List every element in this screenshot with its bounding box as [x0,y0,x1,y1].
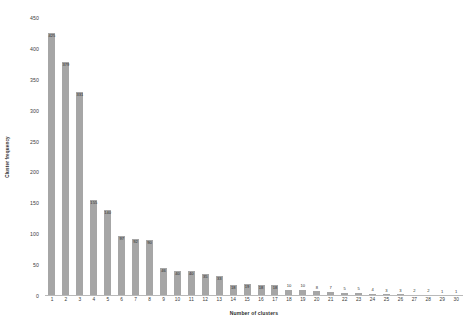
bar-value-label: 92 [133,240,138,244]
bar-value-label: 4 [371,288,373,292]
bar-slot: 3 [393,18,407,296]
x-axis-tick-label: 4 [87,297,101,309]
bar-slot: 35 [198,18,212,296]
x-axis-line [45,295,463,296]
x-axis-tick-label: 3 [73,297,87,309]
x-axis-tick-label: 5 [101,297,115,309]
x-axis-tick-label: 24 [366,297,380,309]
bar-value-label: 18 [231,286,236,290]
y-axis-tick-label: 200 [30,169,39,175]
x-axis-tick-label: 25 [380,297,394,309]
x-axis-tick-label: 15 [240,297,254,309]
bar-slot: 18 [226,18,240,296]
bar-value-label: 2 [427,289,429,293]
bar-slot: 46 [157,18,171,296]
table-row[interactable]: 140 [104,210,111,296]
x-axis-tick-label: 27 [407,297,421,309]
bar-series: 4253793311551409792904640403533181918181… [45,18,463,296]
x-axis-tick-label: 18 [282,297,296,309]
bar-slot: 155 [87,18,101,296]
table-row[interactable]: 35 [202,274,209,296]
bar-value-label: 155 [90,201,97,205]
bar-value-label: 8 [316,286,318,290]
x-axis-tick-label: 2 [59,297,73,309]
y-axis-tick-label: 0 [36,293,39,299]
table-row[interactable]: 425 [48,33,55,296]
bar-value-label: 331 [76,93,83,97]
y-axis-tick-label: 50 [33,262,39,268]
bar-slot: 18 [268,18,282,296]
x-axis-tick-label: 28 [421,297,435,309]
bar-value-label: 379 [62,63,69,67]
bar-slot: 10 [296,18,310,296]
x-axis-tick-label: 10 [170,297,184,309]
bar-slot: 92 [129,18,143,296]
x-axis-tick-label: 11 [184,297,198,309]
bar-value-label: 1 [455,290,457,294]
bar-slot: 140 [101,18,115,296]
bar-value-label: 425 [49,34,56,38]
bar-slot: 40 [170,18,184,296]
bar-value-label: 3 [385,289,387,293]
table-row[interactable]: 90 [146,240,153,296]
x-axis-tick-label: 23 [352,297,366,309]
x-axis-tick-label: 9 [157,297,171,309]
bar-slot: 40 [184,18,198,296]
bar-value-label: 3 [399,289,401,293]
bar-value-label: 7 [330,286,332,290]
bar-value-label: 97 [119,237,124,241]
x-axis-tick-label: 26 [393,297,407,309]
bar-slot: 8 [310,18,324,296]
x-axis-tick-label: 13 [212,297,226,309]
x-axis-tick-label: 22 [338,297,352,309]
y-axis-tick-label: 350 [30,77,39,83]
table-row[interactable]: 40 [188,271,195,296]
y-axis-title: Cluster frequency [5,112,10,202]
bar-value-label: 5 [344,287,346,291]
x-axis-tick-label: 21 [324,297,338,309]
table-row[interactable]: 46 [160,268,167,296]
bar-slot: 3 [380,18,394,296]
table-row[interactable]: 40 [174,271,181,296]
bar-slot: 1 [449,18,463,296]
bar-value-label: 33 [217,277,222,281]
bar-value-label: 35 [203,275,208,279]
x-axis-tick-label: 17 [268,297,282,309]
table-row[interactable]: 92 [132,239,139,296]
x-axis-tick-label: 6 [115,297,129,309]
bar-value-label: 18 [273,286,278,290]
bar-value-label: 46 [161,269,166,273]
bar-slot: 33 [212,18,226,296]
bar-value-label: 10 [301,284,306,288]
bar-value-label: 1 [441,290,443,294]
y-axis-tick-label: 400 [30,46,39,52]
bar-slot: 425 [45,18,59,296]
x-axis-tick-label: 30 [449,297,463,309]
x-axis-tick-label: 20 [310,297,324,309]
table-row[interactable]: 331 [76,92,83,296]
y-axis-tick-label: 450 [30,15,39,21]
bar-value-label: 140 [104,211,111,215]
table-row[interactable]: 379 [62,62,69,296]
bar-value-label: 2 [413,289,415,293]
bar-slot: 331 [73,18,87,296]
x-axis-tick-label: 1 [45,297,59,309]
bar-value-label: 18 [259,286,264,290]
y-axis-tick-label: 150 [30,200,39,206]
x-axis-tick-label: 29 [435,297,449,309]
table-row[interactable]: 33 [216,276,223,296]
table-row[interactable]: 97 [118,236,125,296]
x-axis-tick-label: 7 [129,297,143,309]
bar-slot: 7 [324,18,338,296]
table-row[interactable]: 155 [90,200,97,296]
y-axis-tick-label: 250 [30,139,39,145]
bar-value-label: 5 [357,287,359,291]
bar-slot: 2 [407,18,421,296]
plot-area: 4253793311551409792904640403533181918181… [45,18,463,296]
y-axis: Cluster frequency 0501001502002503003504… [0,18,45,296]
bar-slot: 19 [240,18,254,296]
bar-slot: 90 [143,18,157,296]
bar-slot: 10 [282,18,296,296]
bar-value-label: 90 [147,241,152,245]
bar-slot: 2 [421,18,435,296]
